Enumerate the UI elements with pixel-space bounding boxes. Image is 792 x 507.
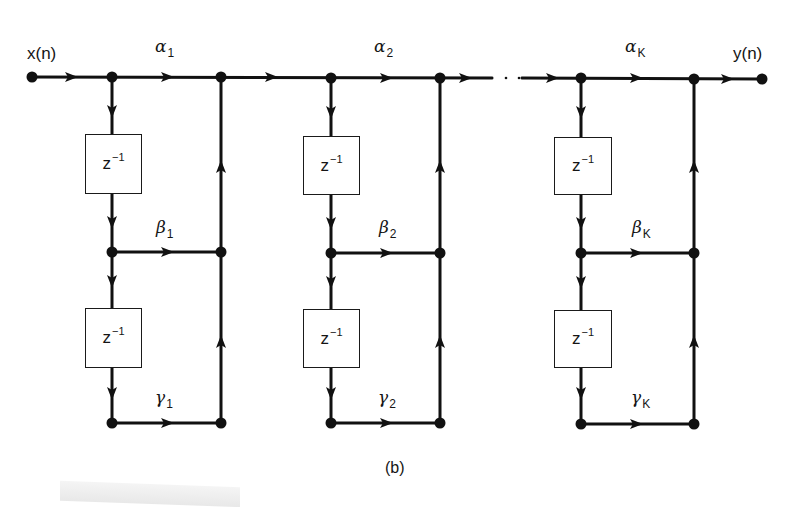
beta-K-label: βK bbox=[632, 219, 651, 236]
gamma-2-label: γ2 bbox=[378, 389, 396, 406]
beta-1-label: β1 bbox=[156, 219, 174, 236]
beta-2-label: β2 bbox=[379, 219, 397, 236]
delay-label: z−1 bbox=[102, 154, 124, 174]
delay-label: z−1 bbox=[572, 156, 594, 176]
gamma-1-label: γ1 bbox=[155, 389, 173, 406]
alpha-K-label: αK bbox=[625, 38, 646, 55]
delay-block-stage2-bottom: z−1 bbox=[303, 309, 360, 368]
delay-label: z−1 bbox=[102, 328, 124, 348]
delay-block-stage1-bottom: z−1 bbox=[85, 308, 142, 368]
alpha-1-label: α1 bbox=[155, 38, 174, 55]
delay-label: z−1 bbox=[572, 329, 594, 349]
delay-block-stageK-top: z−1 bbox=[554, 137, 612, 195]
alpha-2-label: α2 bbox=[374, 38, 393, 55]
gamma-K-label: γK bbox=[631, 389, 650, 406]
delay-block-stage2-top: z−1 bbox=[303, 136, 360, 195]
delay-block-stageK-bottom: z−1 bbox=[554, 310, 612, 368]
input-label: x(n) bbox=[27, 45, 56, 62]
delay-label: z−1 bbox=[320, 156, 342, 176]
ellipsis-dots bbox=[505, 77, 521, 80]
output-label: y(n) bbox=[733, 45, 762, 62]
figure-caption: (b) bbox=[385, 460, 405, 476]
delay-block-stage1-top: z−1 bbox=[85, 134, 142, 194]
delay-label: z−1 bbox=[320, 329, 342, 349]
